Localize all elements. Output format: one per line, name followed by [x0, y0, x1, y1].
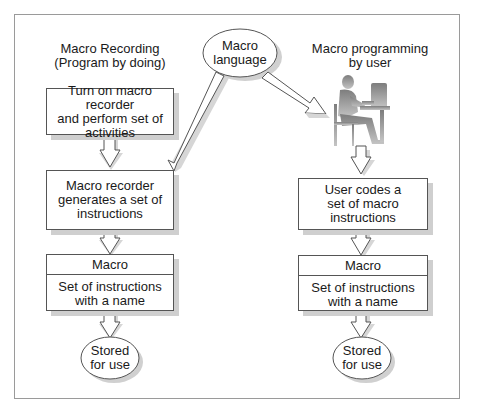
left-macro-body: Set of instructions with a name	[47, 275, 173, 312]
down-arrow-left-3	[99, 311, 123, 340]
down-arrow-right-3	[351, 311, 375, 340]
left-macro-header: Macro	[47, 255, 173, 275]
left-step1-box: Turn on macro recorder and perform set o…	[46, 88, 174, 135]
down-arrow-left-2	[99, 230, 123, 256]
right-macro-body: Set of instructions with a name	[299, 276, 427, 313]
left-column-title: Macro Recording (Program by doing)	[40, 42, 180, 70]
left-storage-ellipse: Stored for use	[81, 337, 139, 379]
right-storage-ellipse: Stored for use	[333, 337, 391, 379]
left-macro-box: Macro Set of instructions with a name	[46, 254, 174, 311]
down-arrow-right-2	[351, 230, 375, 257]
right-step1-box: User codes a set of macro instructions	[298, 178, 428, 230]
right-column-title: Macro programming by user	[300, 42, 440, 70]
left-step2-box: Macro recorder generates a set of instru…	[46, 170, 174, 230]
person-at-computer-icon	[334, 75, 390, 146]
right-macro-box: Macro Set of instructions with a name	[298, 255, 428, 311]
macro-language-bubble: Macro language	[203, 29, 277, 77]
down-arrow-left-1	[99, 135, 123, 170]
down-arrow-right-1	[351, 146, 375, 176]
right-macro-header: Macro	[299, 256, 427, 276]
